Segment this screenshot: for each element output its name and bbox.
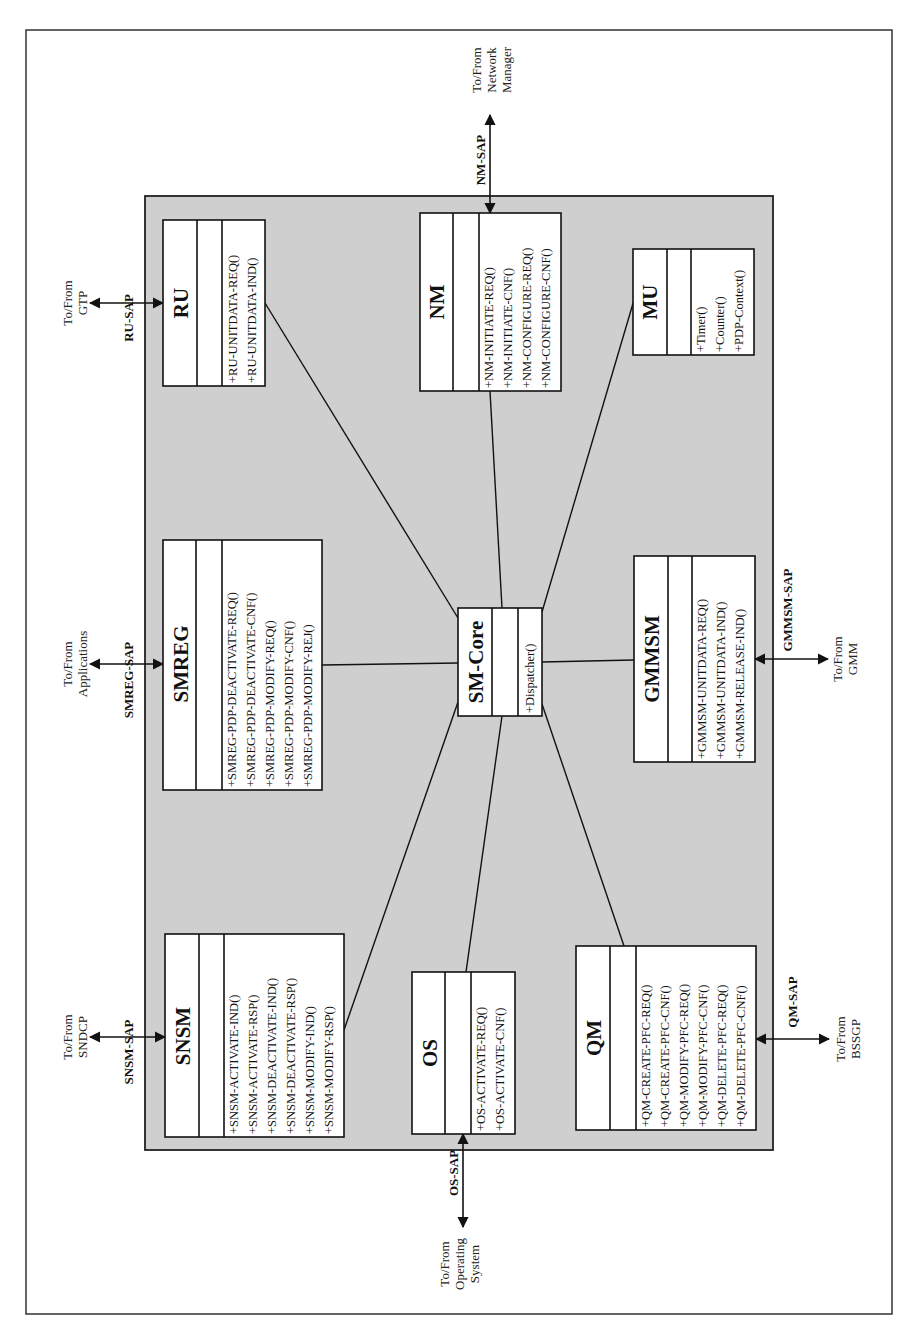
- svg-text:+OS-ACTIVATE-CNF(): +OS-ACTIVATE-CNF(): [493, 1008, 507, 1132]
- svg-text:Applications: Applications: [75, 631, 90, 697]
- svg-text:+SNSM-ACTIVATE-IND(): +SNSM-ACTIVATE-IND(): [227, 995, 241, 1134]
- svg-text:+OS-ACTIVATE-REQ(): +OS-ACTIVATE-REQ(): [474, 1007, 488, 1131]
- svg-text:Manager: Manager: [499, 46, 514, 93]
- svg-text:System: System: [467, 1245, 482, 1283]
- svg-text:BSSGP: BSSGP: [848, 1019, 863, 1059]
- svg-text:+QM-MODIFY-PFC-CNF(): +QM-MODIFY-PFC-CNF(): [696, 985, 710, 1128]
- class-name: SMREG: [169, 625, 193, 702]
- operations: +Dispatcher(): [523, 643, 537, 713]
- class-name: SNSM: [171, 1007, 195, 1066]
- svg-text:+QM-CREATE-PFC-CNF(): +QM-CREATE-PFC-CNF(): [658, 985, 672, 1127]
- class-smreg[interactable]: SMREG +SMREG-PDP-DEACTIVATE-REQ() +SMREG…: [163, 540, 322, 790]
- class-name: SM-Core: [464, 621, 488, 703]
- network-manager-label: To/From Network Manager: [469, 46, 514, 93]
- sm-class-diagram: RU-SAP NM-SAP SMREG-SAP GMMSM-SAP SNSM-S…: [0, 0, 914, 1341]
- svg-text:+GMMSM-RELEASE-IND(): +GMMSM-RELEASE-IND(): [733, 609, 747, 759]
- svg-text:+NM-CONFIGURE-REQ(): +NM-CONFIGURE-REQ(): [520, 248, 534, 388]
- class-qm[interactable]: QM +QM-CREATE-PFC-REQ() +QM-CREATE-PFC-C…: [576, 946, 756, 1130]
- svg-text:+SMREG-PDP-MODIFY-CNF(): +SMREG-PDP-MODIFY-CNF(): [282, 621, 296, 787]
- svg-text:+SNSM-DEACTIVATE-IND(): +SNSM-DEACTIVATE-IND(): [265, 978, 279, 1134]
- svg-text:+Dispatcher(): +Dispatcher(): [523, 643, 537, 713]
- svg-text:+SNSM-MODIFY-IND(): +SNSM-MODIFY-IND(): [303, 1006, 317, 1134]
- svg-text:+SNSM-MODIFY-RSP(): +SNSM-MODIFY-RSP(): [322, 1006, 336, 1134]
- svg-text:+SMREG-PDP-DEACTIVATE-REQ(): +SMREG-PDP-DEACTIVATE-REQ(): [225, 592, 239, 787]
- gmmsm-sap-label: GMMSM-SAP: [780, 568, 795, 651]
- os-sap-label: OS-SAP: [446, 1150, 461, 1196]
- svg-text:Operating: Operating: [452, 1238, 467, 1290]
- svg-text:+PDP-Context(): +PDP-Context(): [732, 270, 746, 352]
- svg-text:To/From: To/From: [60, 641, 75, 686]
- gmm-label: To/From GMM: [830, 636, 860, 681]
- svg-text:+RU-UNITDATA-REQ(): +RU-UNITDATA-REQ(): [226, 255, 240, 383]
- sndcp-label: To/From SNDCP: [60, 1014, 90, 1059]
- class-mu[interactable]: MU +Timer() +Counter() +PDP-Context(): [633, 249, 754, 355]
- svg-text:+SMREG-PDP-MODIFY-REJ(): +SMREG-PDP-MODIFY-REJ(): [301, 624, 315, 787]
- class-name: OS: [418, 1039, 442, 1067]
- svg-text:+SMREG-PDP-MODIFY-REQ(): +SMREG-PDP-MODIFY-REQ(): [263, 620, 277, 787]
- svg-text:+SMREG-PDP-DEACTIVATE-CNF(): +SMREG-PDP-DEACTIVATE-CNF(): [244, 593, 258, 787]
- svg-text:+QM-DELETE-PFC-CNF(): +QM-DELETE-PFC-CNF(): [734, 985, 748, 1127]
- svg-text:+QM-CREATE-PFC-REQ(): +QM-CREATE-PFC-REQ(): [639, 985, 653, 1127]
- svg-text:+GMMSM-UNITDATA-IND(): +GMMSM-UNITDATA-IND(): [714, 602, 728, 759]
- smreg-sap-label: SMREG-SAP: [121, 642, 136, 719]
- svg-text:+Counter(): +Counter(): [713, 296, 727, 352]
- svg-text:+SNSM-ACTIVATE-RSP(): +SNSM-ACTIVATE-RSP(): [246, 995, 260, 1134]
- class-sm-core[interactable]: SM-Core +Dispatcher(): [458, 608, 542, 716]
- qm-sap-label: QM-SAP: [785, 976, 800, 1027]
- class-gmmsm[interactable]: GMMSM +GMMSM-UNITDATA-REQ() +GMMSM-UNITD…: [634, 556, 755, 762]
- svg-text:GTP: GTP: [75, 291, 90, 316]
- svg-text:GMM: GMM: [845, 642, 860, 675]
- svg-text:+RU-UNITDATA-IND(): +RU-UNITDATA-IND(): [245, 258, 259, 383]
- svg-text:To/From: To/From: [830, 636, 845, 681]
- svg-text:+NM-INITIATE-CNF(): +NM-INITIATE-CNF(): [501, 268, 515, 388]
- svg-text:+QM-DELETE-PFC-REQ(): +QM-DELETE-PFC-REQ(): [715, 985, 729, 1127]
- svg-text:+NM-CONFIGURE-CNF(): +NM-CONFIGURE-CNF(): [539, 248, 553, 388]
- operating-system-label: To/From Operating System: [437, 1238, 482, 1290]
- class-ru[interactable]: RU +RU-UNITDATA-REQ() +RU-UNITDATA-IND(): [163, 220, 265, 386]
- svg-text:+QM-MODIFY-PFC-REQ(): +QM-MODIFY-PFC-REQ(): [677, 984, 691, 1127]
- nm-sap-label: NM-SAP: [473, 135, 488, 186]
- svg-text:To/From: To/From: [60, 1014, 75, 1059]
- class-name: GMMSM: [640, 615, 664, 703]
- svg-text:SNDCP: SNDCP: [75, 1016, 90, 1058]
- class-nm[interactable]: NM +NM-INITIATE-REQ() +NM-INITIATE-CNF()…: [420, 213, 561, 391]
- class-name: NM: [425, 284, 449, 319]
- class-name: QM: [582, 1020, 606, 1056]
- ru-sap-label: RU-SAP: [121, 294, 136, 342]
- svg-text:+GMMSM-UNITDATA-REQ(): +GMMSM-UNITDATA-REQ(): [695, 599, 709, 759]
- svg-text:To/From: To/From: [60, 280, 75, 325]
- operations: +GMMSM-UNITDATA-REQ() +GMMSM-UNITDATA-IN…: [695, 599, 747, 759]
- class-os[interactable]: OS +OS-ACTIVATE-REQ() +OS-ACTIVATE-CNF(): [412, 972, 515, 1134]
- class-name: RU: [169, 288, 193, 318]
- class-snsm[interactable]: SNSM +SNSM-ACTIVATE-IND() +SNSM-ACTIVATE…: [165, 934, 344, 1137]
- snsm-sap-label: SNSM-SAP: [121, 1019, 136, 1084]
- bssgp-label: To/From BSSGP: [833, 1016, 863, 1061]
- svg-text:Network: Network: [484, 47, 499, 93]
- svg-text:+SNSM-DEACTIVATE-RSP(): +SNSM-DEACTIVATE-RSP(): [284, 978, 298, 1134]
- svg-text:To/From: To/From: [833, 1016, 848, 1061]
- class-name: MU: [638, 285, 662, 320]
- svg-text:To/From: To/From: [437, 1241, 452, 1286]
- svg-text:To/From: To/From: [469, 47, 484, 92]
- svg-text:+NM-INITIATE-REQ(): +NM-INITIATE-REQ(): [482, 267, 496, 388]
- svg-text:+Timer(): +Timer(): [694, 307, 708, 352]
